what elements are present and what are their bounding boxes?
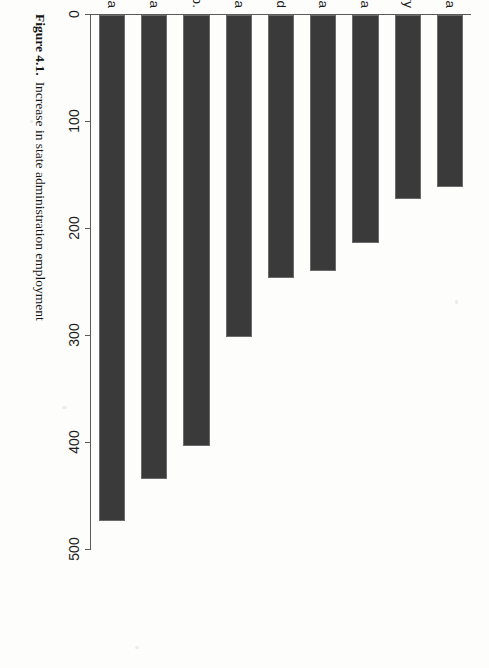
axis-tick [85,549,91,550]
scan-speck [62,406,67,409]
figure-caption-text: Increase in state administration employm… [33,82,48,321]
axis-tick-label: 500 [66,537,82,560]
bar [352,15,378,243]
bar [225,15,251,337]
category-label: Bulgaria [146,0,161,8]
category-label: Lithuania [315,0,330,8]
bar-row: Slovenia [352,15,378,549]
bar-row: Lithuania [310,15,336,549]
axis-tick [85,121,91,122]
bar [310,15,336,271]
category-label: Czech Rep. [189,0,204,8]
category-label: Poland [273,0,288,8]
bar [267,15,293,278]
category-label: Estonia [442,0,457,8]
bar [99,15,125,521]
axis-tick-label: 0 [66,10,82,18]
bar-row: Bulgaria [141,15,167,549]
bar [436,15,462,187]
bar [183,15,209,446]
bar-row: Latvia [99,15,125,549]
scanned-page-background: EstoniaHungarySloveniaLithuaniaPolandSlo… [0,0,489,668]
category-label: Latvia [104,0,119,8]
bar-row: Slovakia [225,15,251,549]
bars-container: EstoniaHungarySloveniaLithuaniaPolandSlo… [91,15,471,549]
figure-caption-label: Figure 4.1. [33,14,48,76]
axis-tick [85,228,91,229]
bar [394,15,420,199]
bar [141,15,167,479]
axis-tick-label: 300 [66,323,82,346]
category-label: Hungary [400,0,415,8]
figure-caption: Figure 4.1.Increase in state administrat… [32,14,48,654]
category-label: Slovenia [357,0,372,8]
bar-row: Estonia [436,15,462,549]
bar-row: Czech Rep. [183,15,209,549]
scan-speck [455,300,458,304]
rotated-figure-wrapper: EstoniaHungarySloveniaLithuaniaPolandSlo… [19,14,471,654]
axis-tick [85,14,91,15]
bar-row: Poland [267,15,293,549]
axis-tick-label: 400 [66,430,82,453]
scan-speck [135,646,139,649]
bar-row: Hungary [394,15,420,549]
bar-chart-plot-area: EstoniaHungarySloveniaLithuaniaPolandSlo… [91,14,471,549]
axis-tick-label: 100 [66,109,82,132]
figure-4-1: EstoniaHungarySloveniaLithuaniaPolandSlo… [19,14,471,654]
category-label: Slovakia [231,0,246,8]
axis-tick [85,335,91,336]
scan-speck [30,120,33,123]
axis-tick [85,442,91,443]
axis-tick-label: 200 [66,216,82,239]
